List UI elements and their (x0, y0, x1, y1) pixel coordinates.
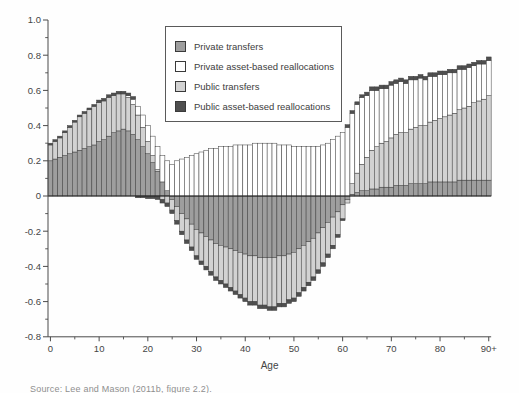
bar-segment (165, 191, 170, 196)
bar-segment (121, 91, 126, 94)
bar-segment (209, 148, 214, 196)
bar-segment (355, 173, 360, 192)
bar-segment (277, 256, 282, 304)
bar-segment (326, 143, 331, 196)
bar-segment (233, 145, 238, 196)
bar-segment (150, 156, 155, 163)
bar-segment (257, 143, 262, 196)
bar-segment (360, 97, 365, 164)
bar-segment (306, 242, 311, 282)
bar-segment (257, 258, 262, 306)
bar-segment (136, 106, 141, 115)
bar-segment (472, 62, 477, 66)
bar-segment (48, 145, 53, 161)
bar-segment (204, 236, 209, 266)
bar-segment (199, 152, 204, 196)
bar-segment (311, 277, 316, 281)
bar-segment (399, 185, 404, 196)
bar-segment (82, 148, 87, 196)
bar-segment (214, 148, 219, 196)
bar-segment (462, 66, 467, 70)
bar-segment (292, 147, 297, 196)
bar-segment (394, 83, 399, 134)
legend-item-public-transfers: Public transfers (175, 76, 333, 96)
bar-segment (175, 161, 180, 196)
bar-segment (194, 196, 199, 229)
bar-segment (277, 145, 282, 196)
bar-segment (394, 185, 399, 196)
bar-segment (462, 69, 467, 108)
bar-segment (369, 189, 374, 196)
y-tick-label: -0.6 (25, 296, 41, 307)
bar-segment (296, 196, 301, 249)
bar-segment (330, 140, 335, 196)
bar-segment (175, 196, 180, 207)
bar-segment (126, 131, 131, 196)
bar-segment (467, 106, 472, 180)
bar-segment (462, 180, 467, 196)
bar-segment (272, 196, 277, 258)
bar-segment (262, 305, 267, 309)
bar-segment (111, 133, 116, 196)
bar-segment (321, 196, 326, 228)
bar-segment (423, 126, 428, 184)
bar-segment (194, 229, 199, 255)
bar-segment (335, 212, 340, 235)
bar-segment (404, 133, 409, 186)
bar-segment (282, 303, 287, 307)
bar-segment (136, 115, 141, 140)
bar-segment (253, 302, 258, 306)
bar-segment (311, 196, 316, 238)
bar-segment (72, 152, 77, 196)
bar-segment (257, 305, 262, 309)
bar-segment (389, 187, 394, 196)
bar-segment (384, 141, 389, 187)
bar-segment (184, 157, 189, 196)
bar-segment (472, 103, 477, 180)
bar-segment (481, 60, 486, 64)
bar-segment (53, 159, 58, 196)
bar-segment (340, 133, 345, 196)
bar-segment (160, 182, 165, 196)
bar-segment (321, 228, 326, 263)
bar-segment (53, 140, 58, 142)
bar-segment (340, 205, 345, 219)
bar-segment (467, 64, 472, 68)
bar-segment (428, 76, 433, 122)
bar-segment (287, 145, 292, 196)
bar-segment (126, 97, 131, 130)
bar-segment (243, 145, 248, 196)
bar-segment (350, 184, 355, 195)
bar-segment (199, 196, 204, 233)
bar-segment (316, 270, 321, 274)
bar-segment (404, 80, 409, 84)
bar-segment (272, 143, 277, 196)
bar-segment (82, 112, 87, 114)
bar-segment (418, 75, 423, 79)
bar-segment (67, 154, 72, 196)
bar-segment (175, 207, 180, 221)
bar-segment (72, 120, 77, 122)
bar-segment (102, 140, 107, 196)
bar-segment (326, 254, 331, 258)
bar-segment (355, 104, 360, 173)
bar-segment (433, 73, 438, 77)
bar-segment (384, 187, 389, 196)
bar-segment (316, 147, 321, 196)
bar-segment (179, 196, 184, 214)
bar-segment (184, 219, 189, 240)
bar-segment (438, 75, 443, 119)
bar-segment (150, 163, 155, 196)
bar-segment (413, 76, 418, 80)
bar-segment (447, 69, 452, 73)
bar-segment (418, 78, 423, 126)
x-tick-label: 30 (191, 343, 202, 354)
bar-segment (365, 157, 370, 190)
bar-segment (63, 131, 68, 133)
bar-segment (145, 126, 150, 142)
bar-segment (457, 110, 462, 180)
bar-segment (253, 196, 258, 256)
bar-segment (404, 83, 409, 132)
bar-segment (477, 180, 482, 196)
bar-segment (67, 127, 72, 153)
